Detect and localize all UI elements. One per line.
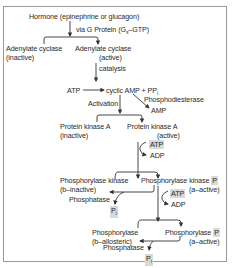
pi-output-1: Pi	[110, 206, 118, 218]
adp-output-1: ADP	[150, 151, 164, 160]
atp-input-2: ATP	[170, 189, 185, 198]
phosphorylase-kinase-inactive: Phosphorylase kinase(b–inactive)	[60, 176, 128, 194]
atp-input-1: ATP	[149, 140, 164, 149]
adenylate-cyclase-active: Adenylate cyclase(active)	[75, 44, 131, 62]
phosphatase-label-1: Phosphatase	[69, 195, 110, 204]
protein-kinase-a-inactive: Protein kinase A(inactive)	[60, 122, 110, 140]
hormone-node: Hormone (epinephrine or glucagon)	[29, 12, 139, 21]
protein-kinase-a-active: Protein kinase A(active)	[127, 122, 180, 140]
phosphodiesterase-label: Phosphodiesterase	[144, 95, 204, 104]
phosphatase-label-2: Phosphatase	[103, 243, 144, 252]
pi-output-2: Pi	[145, 254, 153, 266]
phosphorylase-active: Phosphorylase P(a–active)	[165, 228, 220, 246]
catalysis-label: catalysis	[99, 64, 126, 73]
adp-output-2: ADP	[171, 200, 185, 209]
adenylate-cyclase-inactive: Adenylate cyclase(inactive)	[6, 44, 62, 62]
activation-label: Activation	[88, 99, 118, 108]
atp-label: ATP	[67, 86, 80, 95]
amp-node: AMP	[151, 106, 166, 115]
g-protein-label: via G Protein (Gs–GTP)	[76, 25, 149, 37]
